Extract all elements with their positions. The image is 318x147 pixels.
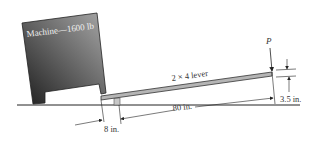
dim-8-left bbox=[75, 120, 102, 125]
ext-line-support bbox=[119, 105, 121, 124]
force-label: P bbox=[265, 36, 272, 46]
lever-label: 2 × 4 lever bbox=[171, 68, 209, 83]
dim-8-label: 8 in. bbox=[104, 124, 119, 134]
support-block bbox=[114, 98, 120, 105]
ext-line-lever-end bbox=[101, 100, 104, 122]
ext-line-top bbox=[276, 69, 296, 70]
dim-80-right bbox=[195, 98, 273, 107]
dim-80-left bbox=[121, 110, 175, 119]
lever-diagram: Machine—1600 lb 2 × 4 lever P 3.5 in. 80… bbox=[0, 0, 318, 147]
extension-line-tip bbox=[272, 72, 275, 104]
dim-80-label: 80 in. bbox=[172, 101, 192, 113]
force-arrow bbox=[270, 48, 272, 71]
ext-line-bottom bbox=[276, 76, 296, 77]
dim-height-label: 3.5 in. bbox=[280, 94, 302, 104]
